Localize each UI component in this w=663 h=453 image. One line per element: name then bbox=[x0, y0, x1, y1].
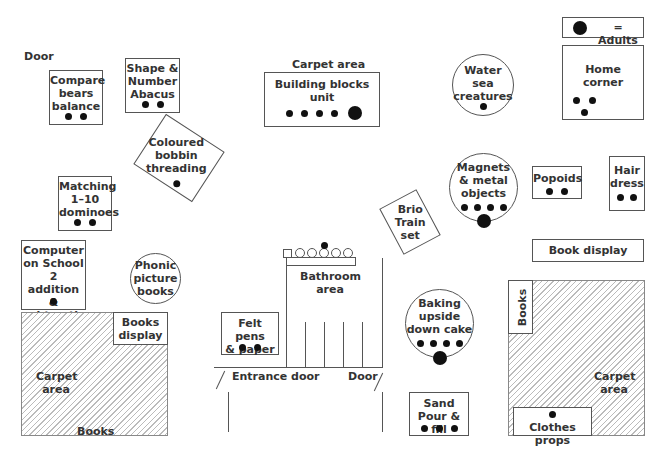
station-label: sea bbox=[453, 77, 513, 90]
child-dot-icon bbox=[239, 344, 246, 351]
toilet-partition bbox=[362, 322, 363, 368]
child-dot-icon bbox=[436, 425, 443, 432]
child-dot-icon bbox=[487, 204, 494, 211]
door-bottom-label: Door bbox=[348, 370, 378, 383]
child-dot-icon bbox=[316, 110, 323, 117]
child-dot-icon bbox=[461, 204, 468, 211]
child-dot-icon bbox=[142, 101, 149, 108]
bathroom-wall-left bbox=[286, 266, 287, 368]
child-dot-icon bbox=[589, 97, 596, 104]
child-dot-icon bbox=[286, 110, 293, 117]
station-label: Train bbox=[390, 216, 430, 229]
station-label: Number bbox=[126, 75, 179, 88]
station-label: Hair bbox=[610, 164, 644, 177]
child-dot-icon bbox=[561, 188, 568, 195]
bathroom-wall-right bbox=[382, 258, 383, 368]
child-dot-icon bbox=[321, 242, 328, 249]
station-label: Compare bbox=[50, 74, 102, 87]
entrance-door-label: Entrance door bbox=[232, 370, 320, 383]
station-coloured-bobbin[interactable]: Coloured bobbin threading bbox=[133, 114, 224, 202]
station-home-corner[interactable]: Home corner bbox=[562, 45, 644, 120]
station-water-sea-creatures[interactable]: Water sea creatures bbox=[452, 54, 514, 116]
entrance-door-post bbox=[228, 392, 229, 432]
child-dot-icon bbox=[549, 411, 556, 418]
adult-dot-icon bbox=[573, 21, 587, 35]
child-dot-icon bbox=[474, 204, 481, 211]
station-label: Book display bbox=[533, 244, 643, 257]
door-post bbox=[382, 392, 383, 432]
child-dot-icon bbox=[417, 340, 424, 347]
legend: = Adults bbox=[562, 17, 644, 38]
station-popoids[interactable]: Popoids bbox=[532, 166, 582, 199]
station-baking[interactable]: Baking upside down cake bbox=[405, 289, 474, 358]
door-top-label: Door bbox=[24, 50, 54, 63]
station-label: Building blocks bbox=[265, 78, 379, 91]
entrance-door-swing bbox=[216, 371, 225, 390]
station-label: Shape & bbox=[126, 62, 179, 75]
station-label: creatures bbox=[453, 90, 513, 103]
child-dot-icon bbox=[480, 103, 487, 110]
entrance-wall bbox=[214, 367, 383, 368]
station-compare-bears[interactable]: Compare bears balance bbox=[49, 70, 103, 125]
child-dot-icon bbox=[89, 219, 96, 226]
station-matching-dominoes[interactable]: Matching 1–10 dominoes bbox=[58, 176, 112, 231]
books-left-label: Books bbox=[77, 425, 114, 438]
station-label: on School 2 bbox=[22, 257, 85, 283]
station-label: Magnets bbox=[450, 161, 517, 174]
station-clothes-props[interactable]: Clothes props bbox=[513, 407, 592, 436]
station-brio-train[interactable]: Brio Train set bbox=[379, 189, 440, 255]
station-hair-dress[interactable]: Hair dress bbox=[609, 156, 645, 211]
child-dot-icon bbox=[443, 340, 450, 347]
station-label: Books bbox=[114, 316, 167, 329]
station-label: down cake bbox=[406, 323, 473, 336]
station-label: unit bbox=[265, 91, 379, 104]
station-computer[interactable]: Computer on School 2 addition & subtract… bbox=[21, 240, 86, 310]
station-label: Clothes props bbox=[514, 421, 591, 447]
adult-dot-icon bbox=[477, 214, 491, 228]
station-label: Water bbox=[453, 64, 513, 77]
station-shape-number-abacus[interactable]: Shape & Number Abacus bbox=[125, 58, 180, 113]
station-label: Brio bbox=[390, 203, 430, 216]
child-dot-icon bbox=[331, 110, 338, 117]
child-dot-icon bbox=[301, 110, 308, 117]
bathroom-area-label: Bathroom area bbox=[300, 270, 360, 296]
station-label: & metal bbox=[450, 174, 517, 187]
station-phonic-books[interactable]: Phonic picture books bbox=[130, 253, 181, 304]
station-label: Baking bbox=[406, 297, 473, 310]
carpet-area-right-label: Carpet area bbox=[594, 370, 634, 396]
station-label: Phonic bbox=[131, 259, 180, 272]
child-dot-icon bbox=[546, 188, 553, 195]
carpet-area-left-label: Carpet area bbox=[36, 370, 76, 396]
child-dot-icon bbox=[456, 340, 463, 347]
child-dot-icon bbox=[421, 425, 428, 432]
station-label: Felt pens bbox=[222, 317, 278, 343]
adult-dot-icon bbox=[348, 106, 362, 120]
station-books-display-left[interactable]: Books display bbox=[113, 312, 168, 345]
child-dot-icon bbox=[617, 194, 624, 201]
child-dot-icon bbox=[173, 180, 180, 187]
station-book-display[interactable]: Book display bbox=[532, 239, 644, 262]
station-label: picture bbox=[131, 272, 180, 285]
station-books-right[interactable]: Books bbox=[508, 280, 533, 334]
toilet-partition bbox=[305, 322, 306, 368]
station-label: threading bbox=[142, 162, 210, 175]
station-label: objects bbox=[450, 187, 517, 200]
station-label: Sand bbox=[410, 397, 468, 410]
station-label: corner bbox=[563, 76, 643, 89]
station-label: Books bbox=[516, 281, 529, 335]
bathroom-counter bbox=[286, 257, 356, 266]
station-building-blocks[interactable]: Building blocks unit bbox=[264, 72, 380, 127]
station-label: Computer bbox=[22, 244, 85, 257]
station-magnets[interactable]: Magnets & metal objects bbox=[449, 153, 518, 222]
child-dot-icon bbox=[50, 298, 57, 305]
station-sand[interactable]: Sand Pour & fill bbox=[409, 392, 469, 436]
station-label: set bbox=[390, 229, 430, 242]
child-dot-icon bbox=[573, 97, 580, 104]
station-felt-pens[interactable]: Felt pens & paper bbox=[221, 312, 279, 355]
station-label: books bbox=[131, 285, 180, 298]
child-dot-icon bbox=[430, 340, 437, 347]
station-label: Home bbox=[563, 63, 643, 76]
station-label: 1–10 bbox=[59, 193, 111, 206]
child-dot-icon bbox=[451, 425, 458, 432]
child-dot-icon bbox=[80, 113, 87, 120]
